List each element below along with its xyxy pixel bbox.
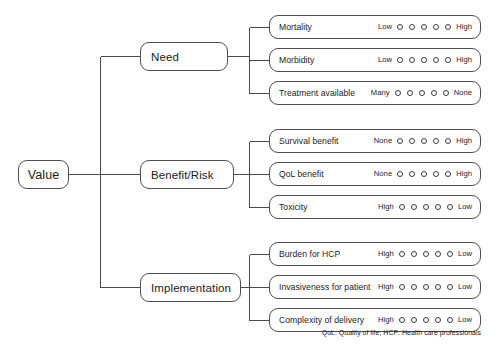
- criterion-invasiveness-for-patient-scale[interactable]: High Low: [378, 283, 472, 291]
- scale-options[interactable]: [397, 24, 451, 30]
- radio-option-3[interactable]: [423, 251, 429, 257]
- radio-option-3[interactable]: [421, 138, 427, 144]
- radio-option-2[interactable]: [411, 284, 417, 290]
- criterion-mortality-scale[interactable]: Low High: [378, 23, 472, 31]
- radio-option-1[interactable]: [397, 138, 403, 144]
- radio-option-4[interactable]: [435, 284, 441, 290]
- radio-option-4[interactable]: [435, 204, 441, 210]
- scale-anchor-high: High: [456, 23, 472, 31]
- criterion-toxicity-scale[interactable]: High Low: [378, 203, 472, 211]
- criterion-toxicity[interactable]: Toxicity High Low: [269, 195, 481, 219]
- criterion-survival-benefit[interactable]: Survival benefit None High: [269, 129, 481, 153]
- radio-option-2[interactable]: [411, 204, 417, 210]
- radio-option-2[interactable]: [409, 24, 415, 30]
- radio-option-2[interactable]: [411, 251, 417, 257]
- criterion-mortality[interactable]: Mortality Low High: [269, 15, 481, 39]
- criterion-complexity-of-delivery-scale[interactable]: High Low: [378, 316, 472, 324]
- criterion-survival-benefit-scale[interactable]: None High: [374, 137, 472, 145]
- scale-options[interactable]: [397, 171, 451, 177]
- criterion-qol-benefit-scale[interactable]: None High: [374, 170, 472, 178]
- criterion-treatment-available[interactable]: Treatment available Many None: [269, 81, 481, 105]
- radio-option-5[interactable]: [447, 284, 453, 290]
- scale-options[interactable]: [397, 138, 451, 144]
- criterion-morbidity-scale[interactable]: Low High: [378, 56, 472, 64]
- scale-options[interactable]: [399, 317, 453, 323]
- node-benefit-risk[interactable]: Benefit/Risk: [140, 160, 234, 189]
- radio-option-5[interactable]: [445, 171, 451, 177]
- scale-anchor-low: High: [378, 316, 394, 324]
- criterion-treatment-available-label: Treatment available: [279, 89, 355, 98]
- radio-option-2[interactable]: [411, 317, 417, 323]
- scale-anchor-high: Low: [458, 250, 472, 258]
- radio-option-5[interactable]: [447, 317, 453, 323]
- radio-option-5[interactable]: [445, 138, 451, 144]
- radio-option-4[interactable]: [433, 24, 439, 30]
- node-value[interactable]: Value: [18, 160, 69, 189]
- node-implementation[interactable]: Implementation: [140, 273, 241, 302]
- criterion-treatment-available-scale[interactable]: Many None: [371, 89, 472, 97]
- radio-option-1[interactable]: [395, 90, 401, 96]
- scale-anchor-high: Low: [458, 203, 472, 211]
- criterion-burden-for-hcp[interactable]: Burden for HCP High Low: [269, 242, 481, 266]
- radio-option-1[interactable]: [399, 284, 405, 290]
- criterion-toxicity-label: Toxicity: [279, 203, 308, 212]
- radio-option-5[interactable]: [447, 251, 453, 257]
- radio-option-3[interactable]: [421, 57, 427, 63]
- radio-option-1[interactable]: [397, 24, 403, 30]
- node-benefit-risk-label: Benefit/Risk: [151, 169, 214, 181]
- radio-option-4[interactable]: [433, 138, 439, 144]
- radio-option-5[interactable]: [445, 57, 451, 63]
- scale-anchor-low: Low: [378, 23, 392, 31]
- radio-option-5[interactable]: [447, 204, 453, 210]
- radio-option-4[interactable]: [433, 171, 439, 177]
- scale-options[interactable]: [399, 284, 453, 290]
- radio-option-1[interactable]: [399, 317, 405, 323]
- node-need-label: Need: [151, 51, 179, 63]
- radio-option-3[interactable]: [423, 284, 429, 290]
- criterion-burden-for-hcp-scale[interactable]: High Low: [378, 250, 472, 258]
- radio-option-4[interactable]: [435, 317, 441, 323]
- radio-option-3[interactable]: [423, 317, 429, 323]
- criterion-mortality-label: Mortality: [279, 23, 312, 32]
- radio-option-2[interactable]: [409, 138, 415, 144]
- scale-options[interactable]: [395, 90, 449, 96]
- node-implementation-label: Implementation: [151, 282, 231, 294]
- radio-option-1[interactable]: [399, 251, 405, 257]
- scale-anchor-low: High: [378, 283, 394, 291]
- scale-anchor-low: None: [374, 170, 392, 178]
- criterion-qol-benefit-label: QoL benefit: [279, 170, 324, 179]
- scale-anchor-high: None: [454, 89, 472, 97]
- scale-anchor-low: None: [374, 137, 392, 145]
- radio-option-5[interactable]: [445, 24, 451, 30]
- scale-anchor-high: High: [456, 56, 472, 64]
- scale-options[interactable]: [399, 251, 453, 257]
- radio-option-3[interactable]: [423, 204, 429, 210]
- radio-option-2[interactable]: [407, 90, 413, 96]
- radio-option-3[interactable]: [421, 24, 427, 30]
- radio-option-1[interactable]: [397, 57, 403, 63]
- radio-option-1[interactable]: [399, 204, 405, 210]
- radio-option-3[interactable]: [421, 171, 427, 177]
- criterion-qol-benefit[interactable]: QoL benefit None High: [269, 162, 481, 186]
- criterion-morbidity[interactable]: Morbidity Low High: [269, 48, 481, 72]
- radio-option-3[interactable]: [419, 90, 425, 96]
- radio-option-4[interactable]: [433, 57, 439, 63]
- radio-option-4[interactable]: [435, 251, 441, 257]
- node-value-label: Value: [28, 168, 60, 182]
- radio-option-4[interactable]: [431, 90, 437, 96]
- scale-anchor-high: Low: [458, 316, 472, 324]
- scale-anchor-high: High: [456, 170, 472, 178]
- node-need[interactable]: Need: [140, 42, 228, 71]
- radio-option-5[interactable]: [443, 90, 449, 96]
- criterion-invasiveness-for-patient-label: Invasiveness for patient: [279, 283, 371, 292]
- value-framework-diagram: Value Need Benefit/Risk Implementation M…: [0, 0, 499, 350]
- scale-options[interactable]: [399, 204, 453, 210]
- scale-anchor-low: Many: [371, 89, 390, 97]
- scale-anchor-low: High: [378, 203, 394, 211]
- radio-option-2[interactable]: [409, 57, 415, 63]
- scale-options[interactable]: [397, 57, 451, 63]
- scale-anchor-low: Low: [378, 56, 392, 64]
- radio-option-2[interactable]: [409, 171, 415, 177]
- criterion-invasiveness-for-patient[interactable]: Invasiveness for patient High Low: [269, 275, 481, 299]
- radio-option-1[interactable]: [397, 171, 403, 177]
